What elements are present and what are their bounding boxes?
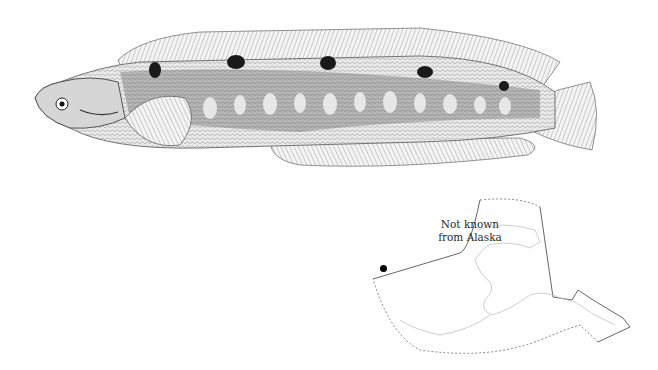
fish-illustration bbox=[0, 0, 658, 200]
fish-head bbox=[35, 78, 125, 128]
map-boundary-east bbox=[540, 207, 630, 342]
fish-pupil bbox=[60, 102, 65, 107]
map-label-line1: Not known bbox=[430, 218, 510, 231]
map-label-line2: from Alaska bbox=[430, 231, 510, 244]
map-boundary-top bbox=[480, 199, 540, 207]
map-label: Not known from Alaska bbox=[430, 218, 510, 244]
alaska-range-map bbox=[360, 190, 658, 370]
occurrence-dot bbox=[380, 265, 387, 272]
map-boundary-south bbox=[373, 279, 598, 353]
